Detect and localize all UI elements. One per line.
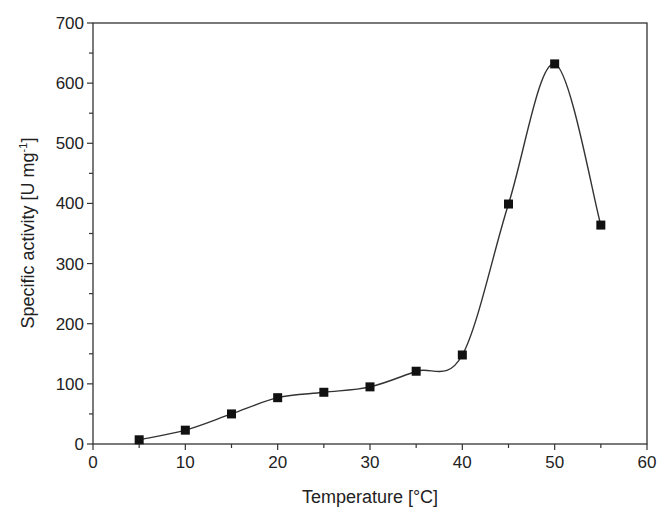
data-point-marker [273,393,282,402]
plot-frame [93,23,647,444]
y-tick-label: 400 [56,194,84,213]
y-tick-label: 200 [56,315,84,334]
y-axis: 0100200300400500600700 [56,14,93,454]
chart: 0102030405060 0100200300400500600700 Tem… [0,0,671,515]
data-point-marker [458,350,467,359]
y-tick-label: 0 [75,435,84,454]
data-point-marker [504,200,513,209]
y-tick-label: 500 [56,134,84,153]
x-tick-label: 30 [361,453,380,472]
y-axis-title: Specific activity [U mg-1] [17,138,38,329]
data-point-marker [135,435,144,444]
data-point-marker [550,59,559,68]
data-point-marker [181,426,190,435]
x-axis-title: Temperature [°C] [302,487,438,507]
data-point-marker [596,221,605,230]
data-point-marker [319,388,328,397]
data-point-marker [412,367,421,376]
x-tick-label: 20 [268,453,287,472]
data-point-marker [366,382,375,391]
data-point-marker [227,409,236,418]
data-markers [135,59,606,444]
x-tick-label: 10 [176,453,195,472]
y-tick-label: 300 [56,255,84,274]
y-tick-label: 100 [56,375,84,394]
y-tick-label: 700 [56,14,84,33]
y-tick-label: 600 [56,74,84,93]
x-tick-label: 0 [88,453,97,472]
x-axis: 0102030405060 [88,444,656,472]
x-tick-label: 60 [638,453,657,472]
x-tick-label: 40 [453,453,472,472]
x-tick-label: 50 [545,453,564,472]
